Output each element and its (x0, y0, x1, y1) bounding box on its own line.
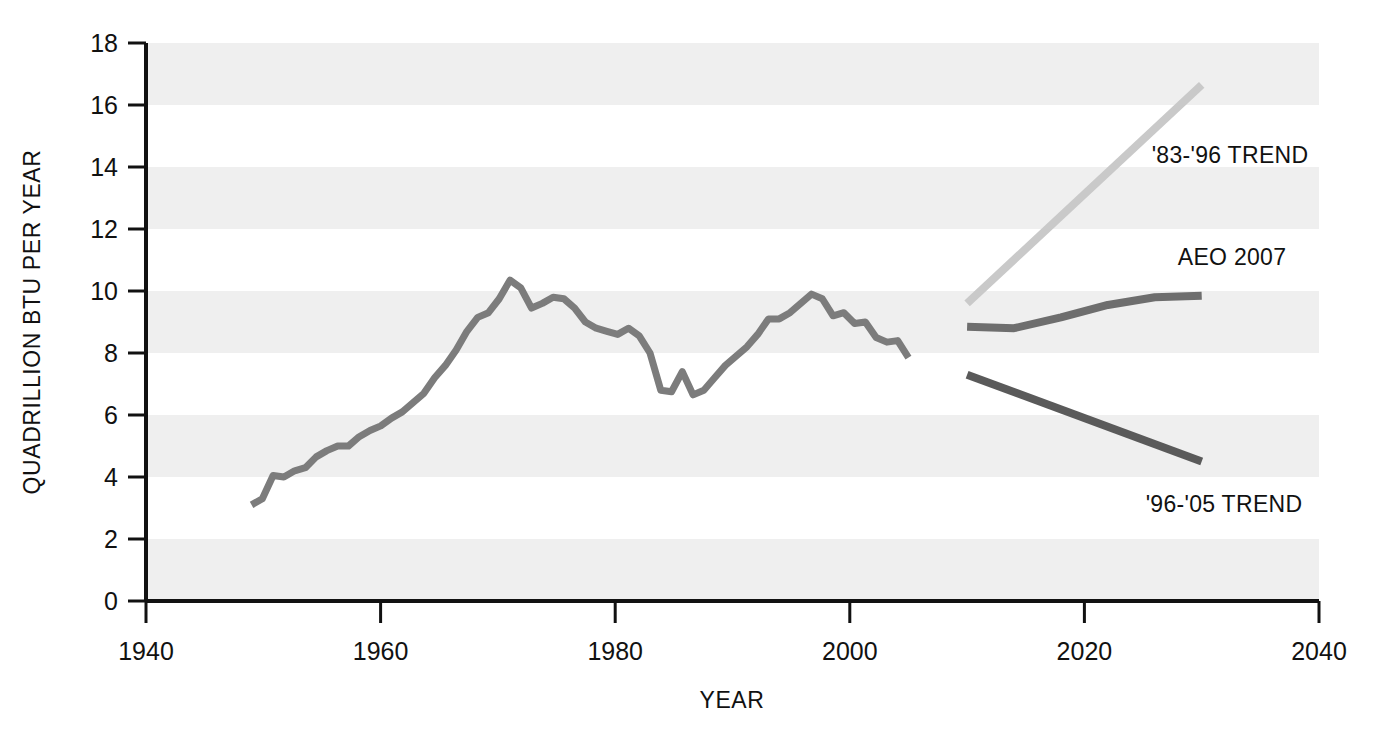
y-tick-label: 4 (104, 463, 118, 491)
y-tick-label: 16 (90, 91, 118, 119)
trend-96-05-label: '96-'05 TREND (1146, 491, 1303, 517)
x-tick-label: 1960 (353, 637, 409, 665)
grid-band (146, 415, 1319, 477)
y-axis-title: QUADRILLION BTU PER YEAR (19, 149, 45, 494)
x-tick-label: 1980 (587, 637, 643, 665)
chart-background (0, 0, 1394, 741)
y-tick-label: 12 (90, 215, 118, 243)
energy-consumption-line-chart: 024681012141618 194019601980200020202040… (0, 0, 1394, 741)
x-tick-label: 1940 (118, 637, 174, 665)
chart-figure: 024681012141618 194019601980200020202040… (0, 0, 1394, 741)
x-axis-title: YEAR (699, 687, 764, 713)
y-tick-label: 6 (104, 401, 118, 429)
trend-83-96-label: '83-'96 TREND (1152, 142, 1309, 168)
y-tick-label: 2 (104, 525, 118, 553)
y-tick-label: 0 (104, 587, 118, 615)
y-tick-label: 18 (90, 29, 118, 57)
x-tick-label: 2000 (822, 637, 878, 665)
y-tick-label: 14 (90, 153, 118, 181)
y-tick-label: 8 (104, 339, 118, 367)
grid-band (146, 539, 1319, 601)
grid-band (146, 43, 1319, 105)
aeo-2007-label: AEO 2007 (1178, 244, 1287, 270)
y-tick-label: 10 (90, 277, 118, 305)
x-tick-label: 2040 (1291, 637, 1347, 665)
grid-band (146, 167, 1319, 229)
x-tick-label: 2020 (1057, 637, 1113, 665)
